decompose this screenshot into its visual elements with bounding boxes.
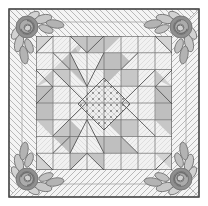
quilt-diagram-canvas: [0, 0, 208, 206]
center-quilt-block: [36, 36, 172, 170]
quilt-pattern-figure: Quilt Block Pattern Diagram: [0, 0, 208, 206]
